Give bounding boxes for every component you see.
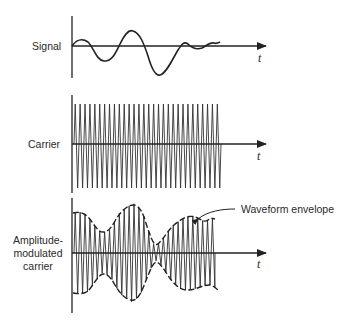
carrier-panel: Carrier t — [28, 95, 266, 193]
carrier-waveform — [74, 104, 221, 188]
signal-label: Signal — [32, 40, 61, 52]
carrier-t-label: t — [257, 149, 261, 163]
envelope-annotation: Waveform envelope — [241, 203, 334, 215]
am-label-line-2: modulated — [13, 247, 62, 259]
am-label-line-1: Amplitude- — [13, 234, 64, 246]
carrier-label: Carrier — [28, 138, 61, 150]
signal-waveform — [72, 31, 220, 75]
signal-t-label: t — [258, 51, 262, 65]
am-t-label: t — [257, 257, 261, 271]
envelope-leader-arrow — [198, 209, 235, 219]
am-panel: Amplitude- modulated carrier t Waveform … — [13, 198, 334, 313]
am-diagram: Signal t Carrier t Amplitude- modulated … — [0, 0, 346, 327]
signal-panel: Signal t — [32, 16, 266, 78]
am-label-line-3: carrier — [23, 260, 53, 272]
